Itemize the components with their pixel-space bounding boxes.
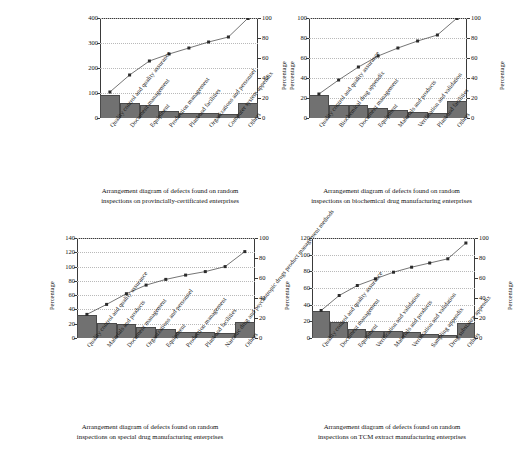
chart-caption-1: Arrangement diagram of defects found on … [80,186,260,206]
chart-panel-provincially-certificated: 400 300 200 100 0 100 80 60 40 20 0 P [0,0,272,230]
caption-line: Arrangement diagram of defects found on … [292,422,492,432]
caption-line: Arrangement diagram of defects found on … [55,422,245,432]
chart-panel-special-drug: 140 120 100 80 60 40 20 0 100 80 60 40 2… [0,230,272,464]
caption-line: inspections on TCM extract manufacturing… [292,432,492,442]
caption-line: Arrangement diagram of defects found on … [80,186,260,196]
chart-caption-2: Arrangement diagram of defects found on … [284,186,499,206]
caption-line: inspections on special drug manufacturin… [55,432,245,442]
chart-caption-4: Arrangement diagram of defects found on … [292,422,492,442]
chart-panel-biochemical-drug: 100 80 60 40 20 0 Percentage 100 80 60 4… [272,0,527,230]
y-axis-left-title-2: Percentage [280,61,287,90]
figure-page: 400 300 200 100 0 100 80 60 40 20 0 P [0,0,527,464]
y-axis-left-title-3: Percentage [48,281,55,310]
chart-panel-tcm-extract: 120 100 80 60 40 20 0 100 80 60 40 20 0 [272,230,527,464]
caption-line: Arrangement diagram of defects found on … [284,186,499,196]
caption-line: inspections on biochemical drug manufact… [284,196,499,206]
y-axis-right-title-4: Percentage [506,281,513,310]
chart-caption-3: Arrangement diagram of defects found on … [55,422,245,442]
caption-line: inspections on provincially-certificated… [80,196,260,206]
y-axis-right-title-2: Percentage [498,61,505,90]
y-axis-left-title-4: Percentage [283,281,290,310]
